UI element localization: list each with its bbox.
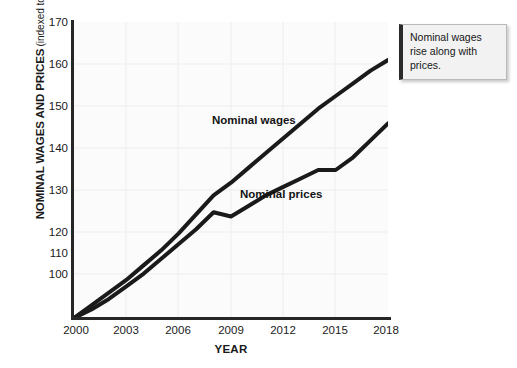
series-label-nominal-wages: Nominal wages bbox=[212, 114, 296, 126]
x-tick-2009: 2009 bbox=[218, 324, 244, 336]
y-tick-100: 100 bbox=[34, 268, 68, 280]
gridlines bbox=[74, 22, 388, 318]
y-axis-line bbox=[71, 20, 74, 320]
x-tick-2006: 2006 bbox=[165, 324, 191, 336]
x-tick-2012: 2012 bbox=[270, 324, 296, 336]
y-tick-120: 120 bbox=[34, 226, 68, 238]
x-tick-2003: 2003 bbox=[113, 324, 139, 336]
chart-svg bbox=[74, 22, 388, 318]
x-tick-2000: 2000 bbox=[63, 324, 89, 336]
plot-area bbox=[74, 22, 388, 318]
y-tick-160: 160 bbox=[34, 58, 68, 70]
series-label-nominal-prices: Nominal prices bbox=[240, 188, 322, 200]
y-axis-ticks: 170 160 150 140 130 120 110 100 bbox=[34, 0, 68, 368]
x-axis-ticks: 2000 2003 2006 2009 2012 2015 2018 bbox=[0, 324, 517, 340]
y-tick-130: 130 bbox=[34, 184, 68, 196]
callout-annotation: Nominal wages rise along with prices. bbox=[399, 24, 507, 80]
y-tick-150: 150 bbox=[34, 100, 68, 112]
chart-figure: NOMINAL WAGES AND PRICES (indexed to 200… bbox=[0, 0, 517, 368]
y-tick-110: 110 bbox=[34, 247, 68, 259]
x-axis-title: YEAR bbox=[74, 343, 388, 355]
x-tick-2015: 2015 bbox=[322, 324, 348, 336]
x-axis-line bbox=[71, 317, 391, 320]
y-tick-140: 140 bbox=[34, 142, 68, 154]
x-tick-2018: 2018 bbox=[373, 324, 399, 336]
y-tick-170: 170 bbox=[34, 16, 68, 28]
